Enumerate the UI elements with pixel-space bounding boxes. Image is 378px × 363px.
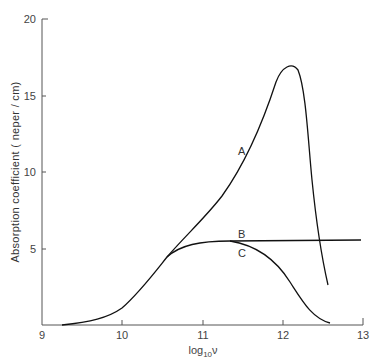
x-tick-9: 9 [39, 329, 45, 341]
x-axis-label: log10ν [188, 344, 218, 359]
x-tick-12: 12 [277, 329, 289, 341]
absorption-chart: 20 15 10 5 9 10 11 12 13 log10ν Absorpti… [0, 0, 378, 363]
x-tick-13: 13 [357, 329, 369, 341]
curve-label-b: B [238, 228, 245, 240]
y-tick-20: 20 [24, 13, 36, 25]
x-tick-10: 10 [116, 329, 128, 341]
x-tick-11: 11 [197, 329, 208, 341]
curve-label-a: A [238, 145, 246, 157]
curves [62, 66, 361, 325]
y-tick-10: 10 [24, 166, 36, 178]
curve-a [62, 66, 328, 325]
curve-label-c: C [238, 247, 246, 259]
y-tick-15: 15 [24, 90, 36, 102]
y-tick-5: 5 [30, 243, 36, 255]
y-axis-label: Absorption coefficient ( neper / cm) [9, 81, 21, 262]
axes [42, 19, 363, 325]
